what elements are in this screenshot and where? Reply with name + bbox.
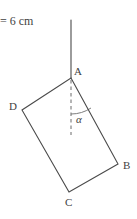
vertex-label-d: D	[9, 101, 17, 112]
quadrilateral-abcd	[22, 78, 118, 192]
angle-label-alpha: α	[76, 114, 82, 125]
vertex-label-a: A	[74, 66, 82, 77]
measure-label: = 6 cm	[0, 15, 33, 27]
geometry-figure: = 6 cm A B C D α	[0, 0, 137, 219]
figure-canvas	[0, 0, 137, 219]
vertex-label-c: C	[65, 197, 72, 208]
vertex-label-b: B	[123, 160, 130, 171]
